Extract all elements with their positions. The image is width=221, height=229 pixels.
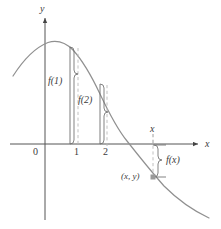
x-variable-tick-label: x — [150, 124, 154, 134]
x-axis-label: x — [205, 139, 209, 149]
origin-label: 0 — [33, 147, 38, 157]
brace-fx — [154, 145, 162, 177]
brace-f1 — [70, 47, 78, 144]
point-marker-xy — [151, 175, 156, 180]
x-tick-label-2: 2 — [103, 147, 108, 157]
x-tick-label-1: 1 — [74, 147, 79, 157]
function-graph-figure: y x 0 1 2 x f(1) f(2) f(x) (x, y) — [0, 0, 221, 229]
point-coordinate-label: (x, y) — [121, 172, 139, 181]
fx-label: f(x) — [166, 155, 180, 165]
graph-canvas — [0, 0, 221, 229]
f2-label: f(2) — [78, 95, 92, 105]
function-curve — [13, 41, 209, 218]
f1-label: f(1) — [48, 76, 62, 86]
y-axis-label: y — [40, 4, 44, 14]
